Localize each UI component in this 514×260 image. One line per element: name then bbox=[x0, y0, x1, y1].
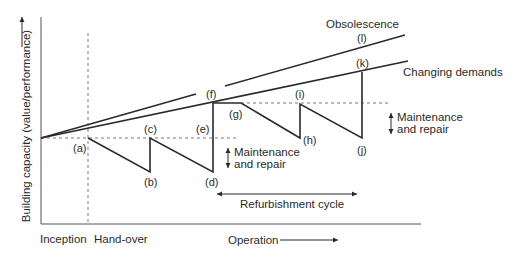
y-axis-label: Building capacity (value/performance) bbox=[20, 30, 32, 223]
point-l-label: (l) bbox=[357, 32, 367, 44]
obsolescence-line bbox=[41, 94, 196, 138]
point-a-label: (a) bbox=[73, 142, 86, 154]
maintenance-label-2a: Maintenance bbox=[397, 111, 463, 123]
building-capacity-diagram: Building capacity (value/performance) In… bbox=[0, 0, 514, 260]
obsolescence-line-cont bbox=[225, 35, 405, 86]
operation-label: Operation bbox=[228, 234, 279, 246]
inception-label: Inception bbox=[40, 233, 87, 245]
point-f-label: (f) bbox=[206, 88, 216, 100]
point-i-label: (i) bbox=[295, 88, 305, 100]
point-c-label: (c) bbox=[144, 123, 157, 135]
maintenance-label-1b: and repair bbox=[234, 158, 286, 170]
changing-demands-line bbox=[41, 61, 408, 138]
refurbishment-label: Refurbishment cycle bbox=[240, 198, 344, 210]
handover-label: Hand-over bbox=[94, 233, 148, 245]
maintenance-label-1a: Maintenance bbox=[234, 146, 300, 158]
changing-demands-label: Changing demands bbox=[403, 66, 503, 78]
performance-curve bbox=[88, 72, 362, 172]
point-g-label: (g) bbox=[229, 108, 242, 120]
point-h-label: (h) bbox=[303, 134, 316, 146]
point-j-label: (j) bbox=[357, 144, 367, 156]
point-b-label: (b) bbox=[144, 176, 157, 188]
maintenance-label-2b: and repair bbox=[397, 123, 449, 135]
point-d-label: (d) bbox=[205, 176, 218, 188]
obsolescence-label: Obsolescence bbox=[326, 18, 399, 30]
point-k-label: (k) bbox=[356, 57, 369, 69]
point-e-label: (e) bbox=[196, 123, 209, 135]
